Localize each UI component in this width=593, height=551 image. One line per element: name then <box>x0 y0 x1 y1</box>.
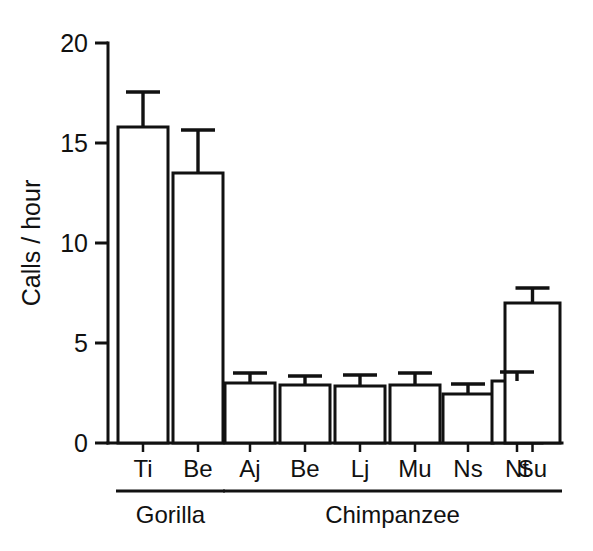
x-category-label: Su <box>518 455 547 482</box>
x-category-label: Aj <box>239 455 260 482</box>
x-category-label: Ns <box>453 455 482 482</box>
bar <box>443 394 493 443</box>
x-category-label: Lj <box>351 455 370 482</box>
bar <box>118 127 168 443</box>
group-label: Gorilla <box>136 501 206 528</box>
bar <box>225 383 275 443</box>
x-category-label: Be <box>183 455 212 482</box>
x-category-label: Mu <box>398 455 431 482</box>
group-label: Chimpanzee <box>325 501 460 528</box>
y-tick-label: 0 <box>74 429 88 457</box>
y-tick-label: 20 <box>60 29 88 57</box>
figure-container: 05101520 Calls / hour TiBeAjBeLjMuNsNtSu… <box>0 0 593 551</box>
bar-chart: 05101520 Calls / hour TiBeAjBeLjMuNsNtSu… <box>0 0 593 551</box>
bar <box>173 173 223 443</box>
bar <box>280 385 330 443</box>
x-category-label: Be <box>290 455 319 482</box>
x-category-label: Ti <box>133 455 152 482</box>
bar <box>390 385 440 443</box>
y-tick-label: 5 <box>74 329 88 357</box>
bar <box>335 386 385 443</box>
y-tick-label: 10 <box>60 229 88 257</box>
y-axis-title: Calls / hour <box>17 180 45 306</box>
y-tick-label: 15 <box>60 129 88 157</box>
